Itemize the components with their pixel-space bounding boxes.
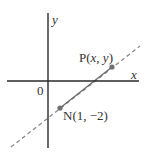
x-axis-label: x — [130, 67, 137, 82]
point-n — [57, 105, 62, 110]
point-p-name: P — [79, 50, 86, 65]
point-p-label: P(x, y) — [79, 50, 113, 65]
segment-np — [60, 67, 112, 108]
origin-label: 0 — [37, 83, 44, 98]
y-axis-label: y — [50, 12, 58, 27]
coordinate-diagram: y x 0 P(x, y) N(1, −2) — [0, 0, 152, 160]
point-n-label: N(1, −2) — [63, 108, 108, 123]
point-p — [109, 64, 114, 69]
